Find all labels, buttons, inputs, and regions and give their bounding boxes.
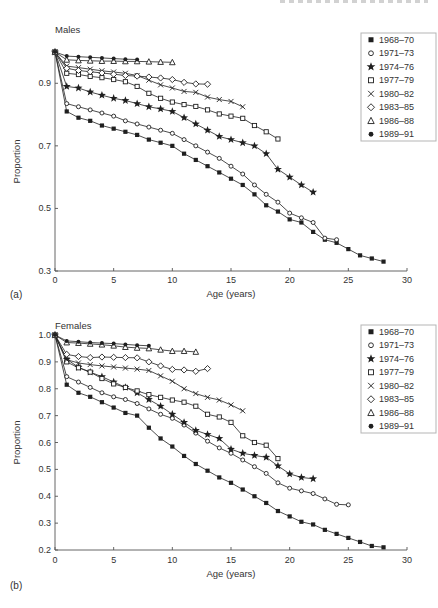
square-filled-marker-icon	[288, 514, 292, 518]
circle-filled-marker-icon	[76, 55, 80, 59]
y-tick-label: 0.3	[38, 518, 51, 528]
circle-open-marker-icon	[299, 489, 303, 493]
square-open-marker-icon	[76, 366, 80, 370]
square-open-marker-icon	[135, 389, 139, 393]
legend-item-label: 1986–88	[379, 408, 414, 418]
circle-open-marker-icon	[135, 402, 139, 406]
square-filled-marker-icon	[381, 260, 385, 264]
square-filled-marker-icon	[381, 545, 385, 549]
axes	[55, 333, 407, 550]
square-filled-marker-icon	[147, 426, 151, 430]
square-open-marker-icon	[369, 78, 374, 83]
circle-open-marker-icon	[100, 391, 104, 395]
series-1971-73	[53, 333, 350, 507]
circle-open-marker-icon	[252, 183, 256, 187]
circle-open-marker-icon	[311, 492, 315, 496]
circle-filled-marker-icon	[112, 57, 116, 61]
y-tick-label: 0.4	[38, 491, 51, 501]
chart-males: 0510152025300.90.70.50.3MalesAge (years)…	[0, 0, 438, 305]
circle-open-marker-icon	[112, 395, 116, 399]
square-open-marker-icon	[369, 370, 374, 375]
x-axis-label: Age (years)	[206, 288, 255, 299]
x-marker-icon	[240, 408, 245, 413]
x-marker-icon	[193, 391, 198, 396]
chart-title: Females	[55, 320, 92, 331]
square-filled-marker-icon	[217, 475, 221, 479]
circle-filled-marker-icon	[135, 343, 139, 347]
diamond-open-marker-icon	[146, 359, 152, 365]
y-tick-label: 0.2	[38, 545, 51, 555]
x-marker-icon	[158, 82, 163, 87]
x-marker-icon	[182, 386, 187, 391]
diamond-open-marker-icon	[169, 366, 175, 372]
square-open-marker-icon	[229, 114, 233, 118]
star-filled-marker-icon	[286, 470, 294, 478]
star-filled-marker-icon	[86, 88, 94, 96]
square-open-marker-icon	[229, 420, 233, 424]
diamond-open-marker-icon	[99, 354, 105, 360]
series-1983-85	[52, 49, 211, 87]
square-open-marker-icon	[147, 393, 151, 397]
circle-open-marker-icon	[112, 114, 116, 118]
circle-open-marker-icon	[288, 211, 292, 215]
circle-open-marker-icon	[264, 471, 268, 475]
circle-open-marker-icon	[252, 465, 256, 469]
diamond-open-marker-icon	[193, 368, 199, 374]
legend-item-label: 1974–76	[379, 354, 414, 364]
square-open-marker-icon	[205, 108, 209, 112]
square-filled-marker-icon	[135, 133, 139, 137]
circle-open-marker-icon	[170, 131, 174, 135]
star-filled-marker-icon	[192, 120, 200, 128]
square-filled-marker-icon	[88, 395, 92, 399]
square-open-marker-icon	[170, 398, 174, 402]
circle-open-marker-icon	[159, 412, 163, 416]
square-open-marker-icon	[159, 395, 163, 399]
x-marker-icon	[170, 379, 175, 384]
circle-open-marker-icon	[217, 156, 221, 160]
legend-item-label: 1968–70	[379, 35, 414, 45]
x-marker-icon	[170, 85, 175, 90]
y-tick-label: 1.0	[38, 330, 51, 340]
legend-item-label: 1971–73	[379, 48, 414, 58]
circle-open-marker-icon	[241, 458, 245, 462]
circle-open-marker-icon	[123, 398, 127, 402]
x-marker-icon	[158, 373, 163, 378]
square-open-marker-icon	[217, 112, 221, 116]
star-filled-marker-icon	[309, 475, 317, 483]
square-open-marker-icon	[194, 404, 198, 408]
star-filled-marker-icon	[309, 188, 317, 196]
x-tick-label: 5	[111, 275, 116, 285]
legend-item-label: 1986–88	[379, 116, 414, 126]
circle-open-marker-icon	[206, 150, 210, 154]
circle-open-marker-icon	[65, 375, 69, 379]
square-filled-marker-icon	[241, 183, 245, 187]
square-filled-marker-icon	[311, 522, 315, 526]
y-tick-label: 0.8	[38, 384, 51, 394]
panel-label: (b)	[10, 580, 22, 591]
circle-open-marker-icon	[88, 385, 92, 389]
square-filled-marker-icon	[358, 540, 362, 544]
square-filled-marker-icon	[370, 256, 374, 260]
square-filled-marker-icon	[241, 487, 245, 491]
x-tick-label: 10	[167, 275, 177, 285]
square-filled-marker-icon	[65, 109, 69, 113]
star-filled-marker-icon	[227, 135, 235, 143]
circle-open-marker-icon	[369, 343, 374, 348]
star-filled-marker-icon	[262, 149, 270, 157]
x-marker-icon	[217, 398, 222, 403]
square-filled-marker-icon	[123, 411, 127, 415]
diamond-open-marker-icon	[122, 354, 128, 360]
star-filled-marker-icon	[239, 139, 247, 147]
square-filled-marker-icon	[147, 138, 151, 142]
x-tick-label: 5	[111, 555, 116, 565]
y-axis-label: Proportion	[11, 140, 22, 184]
circle-open-marker-icon	[206, 439, 210, 443]
square-open-marker-icon	[241, 116, 245, 120]
x-tick-label: 25	[343, 275, 353, 285]
square-filled-marker-icon	[88, 119, 92, 123]
square-open-marker-icon	[135, 84, 139, 88]
legend-item-label: 1977–79	[379, 367, 414, 377]
circle-filled-marker-icon	[147, 344, 151, 348]
chart-title: Males	[55, 24, 81, 35]
diamond-open-marker-icon	[134, 355, 140, 361]
